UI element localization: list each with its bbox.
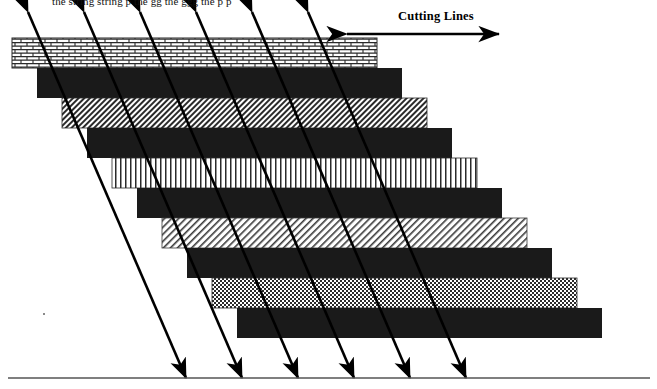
cutting-lines-label: Cutting Lines [398, 9, 474, 24]
strip-solid-3 [137, 188, 502, 218]
strip-solid-1 [37, 68, 402, 98]
stray-speck [43, 313, 45, 315]
strip-vertical-lines [112, 158, 477, 188]
cutting-lines-diagram [0, 0, 657, 389]
strip-stack [12, 38, 602, 338]
figure-caption-clipped: the string string p the gg the ggg the p… [0, 0, 657, 9]
strip-solid-4 [187, 248, 552, 278]
strip-solid-5 [237, 308, 602, 338]
figure-canvas: the string string p the gg the ggg the p… [0, 0, 657, 389]
figure-caption-text: the string string p the gg the ggg the p… [52, 0, 232, 7]
strip-hatch-light [162, 218, 527, 248]
